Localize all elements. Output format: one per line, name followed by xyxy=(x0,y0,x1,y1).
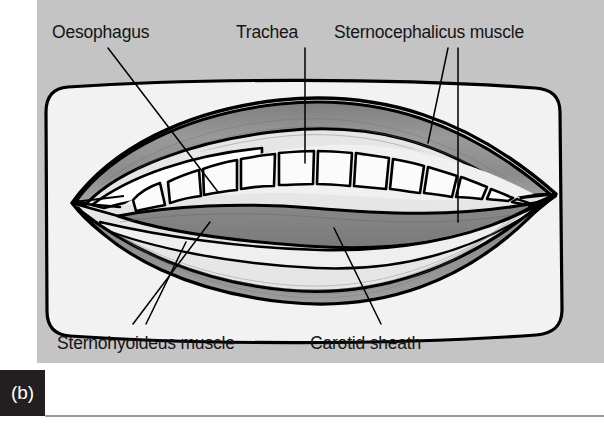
bottom-divider xyxy=(45,415,604,417)
figure-tag: (b) xyxy=(0,370,45,416)
label-sternohyoideus-muscle: Sternohyoideus muscle xyxy=(57,333,235,354)
figure-plate xyxy=(37,0,604,363)
label-trachea: Trachea xyxy=(236,22,298,43)
figure-root: Oesophagus Trachea Sternocephalicus musc… xyxy=(0,0,604,424)
label-carotid-sheath: Carotid sheath xyxy=(310,333,421,354)
label-oesophagus: Oesophagus xyxy=(52,22,149,43)
label-sternocephalicus-muscle: Sternocephalicus muscle xyxy=(334,22,524,43)
